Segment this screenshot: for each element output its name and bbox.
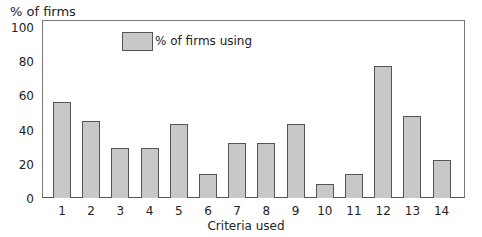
y-axis-label: % of firms	[10, 4, 76, 19]
y-tick-label: 100	[2, 21, 34, 35]
x-tick-label: 2	[76, 204, 106, 218]
x-tick-label: 11	[339, 204, 369, 218]
y-tick-label: 20	[2, 158, 34, 172]
plot-frame	[42, 20, 465, 198]
y-tick-label: 0	[2, 192, 34, 206]
bar	[141, 148, 159, 198]
x-tick-label: 1	[47, 204, 77, 218]
x-tick-label: 13	[397, 204, 427, 218]
bar	[82, 121, 100, 198]
x-tick-label: 4	[135, 204, 165, 218]
bar	[199, 174, 217, 198]
bar	[287, 124, 305, 198]
x-tick-label: 10	[310, 204, 340, 218]
legend-label: % of firms using	[155, 34, 252, 48]
y-tick-label: 60	[2, 89, 34, 103]
y-tick-label: 40	[2, 124, 34, 138]
bar	[228, 143, 246, 198]
x-tick-label: 6	[193, 204, 223, 218]
bar	[170, 124, 188, 198]
bar	[316, 184, 334, 198]
x-tick-label: 5	[164, 204, 194, 218]
x-tick-label: 9	[281, 204, 311, 218]
y-tick-label: 80	[2, 55, 34, 69]
bar	[433, 160, 451, 198]
x-tick-label: 7	[222, 204, 252, 218]
x-tick-label: 12	[368, 204, 398, 218]
bar	[345, 174, 363, 198]
bar	[53, 102, 71, 198]
x-tick-label: 3	[105, 204, 135, 218]
bar	[403, 116, 421, 198]
x-tick-label: 8	[251, 204, 281, 218]
x-tick-label: 14	[427, 204, 457, 218]
x-axis-label: Criteria used	[0, 219, 482, 233]
bar	[374, 66, 392, 198]
bar	[111, 148, 129, 198]
bar	[257, 143, 275, 198]
legend-swatch	[122, 32, 153, 51]
